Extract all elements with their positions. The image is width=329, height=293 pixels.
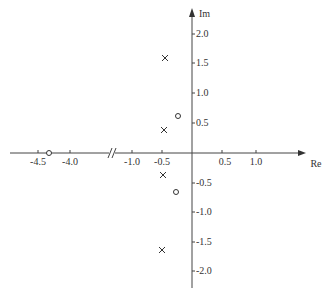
y-tick-label: 2.0 [196,28,209,39]
y-tick-label: 0.5 [196,117,209,128]
x-axis-label: Re [310,158,322,169]
pole-zero-plot: -4.5 -4.0 -1.0 -0.5 0.5 1.0 Re 2.0 1.5 1… [0,0,329,293]
x-tick-label: -4.0 [62,156,78,167]
y-tick-label: 1.0 [196,87,209,98]
zero-marker-icon [47,151,52,156]
pole-marker-icon [159,247,165,253]
imag-axis-arrow-icon [189,8,195,17]
x-tick-label: 0.5 [219,156,232,167]
pole-marker-icon [160,172,166,178]
x-tick-label: 1.0 [250,156,263,167]
x-tick-label: -1.0 [124,156,140,167]
x-tick-label: -0.5 [154,156,170,167]
y-axis-label: Im [199,8,210,19]
zero-marker-icon [176,114,181,119]
real-axis-arrow-icon [298,150,306,156]
y-tick-label: -1.5 [196,236,212,247]
axis-break-icon [108,148,116,158]
x-tick-label: -4.5 [30,156,46,167]
y-tick-label: -1.0 [196,206,212,217]
y-tick-label: -0.5 [196,177,212,188]
y-tick-label: -2.0 [196,265,212,276]
pole-marker-icon [161,127,167,133]
pole-marker-icon [162,55,168,61]
y-tick-label: 1.5 [196,57,209,68]
zero-marker-icon [174,190,179,195]
